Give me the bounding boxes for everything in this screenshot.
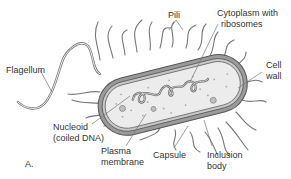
bacterium-diagram: Pili Cytoplasm with ribosomes Cell wall … — [0, 0, 291, 179]
label-nucleoid-line1: Nucleoid — [53, 122, 88, 132]
label-nucleoid-line2: (coiled DNA) — [53, 133, 104, 143]
label-pili: Pili — [168, 10, 180, 20]
label-capsule: Capsule — [153, 150, 186, 160]
label-cell-wall-line2: wall — [266, 71, 282, 81]
label-flagellum: Flagellum — [6, 65, 45, 75]
label-plasma-line1: Plasma — [101, 146, 131, 156]
flagellum-shape — [18, 43, 100, 108]
label-cytoplasm-line2: ribosomes — [221, 19, 263, 29]
label-inclusion-line2: body — [207, 161, 227, 171]
label-inclusion-line1: Inclusion — [207, 150, 243, 160]
label-cell-wall-line1: Cell — [266, 60, 282, 70]
label-cytoplasm-line1: Cytoplasm with — [217, 8, 278, 18]
panel-label: A. — [25, 159, 34, 169]
label-plasma-line2: membrane — [101, 157, 144, 167]
